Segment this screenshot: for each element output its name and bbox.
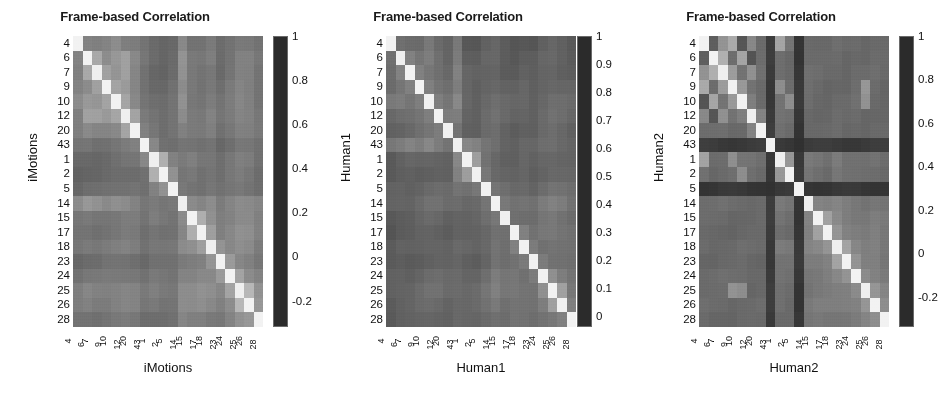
heatmap-cell <box>832 138 842 153</box>
heatmap-cell <box>462 51 472 66</box>
heatmap-cell <box>111 225 121 240</box>
x-tick-labels: 467910122043125141517182324252628 <box>699 328 889 354</box>
heatmap-cell <box>225 254 235 269</box>
heatmap-cell <box>396 240 406 255</box>
heatmap-cell <box>500 312 510 327</box>
heatmap-cell <box>481 167 491 182</box>
colorbar-tick-label: 0.9 <box>596 58 612 70</box>
heatmap-cell <box>111 283 121 298</box>
heatmap-cell <box>709 109 719 124</box>
heatmap-cell <box>83 182 93 197</box>
heatmap-cell <box>424 254 434 269</box>
heatmap-cell <box>83 312 93 327</box>
heatmap-cell <box>510 51 520 66</box>
heatmap-cell <box>396 211 406 226</box>
colorbar-tick-label: 0.4 <box>292 162 308 174</box>
heatmap-cell <box>567 51 577 66</box>
x-axis-title: Human2 <box>699 360 889 375</box>
heatmap-cell <box>756 240 766 255</box>
heatmap-cell <box>462 182 472 197</box>
heatmap-cell <box>206 196 216 211</box>
heatmap-cell <box>434 283 444 298</box>
heatmap-cell <box>225 167 235 182</box>
heatmap-cell <box>244 269 254 284</box>
heatmap-cell <box>785 269 795 284</box>
heatmap-cell <box>548 123 558 138</box>
heatmap-cell <box>794 109 804 124</box>
heatmap-cell <box>149 94 159 109</box>
heatmap-cell <box>225 182 235 197</box>
colorbar-tick-label: 0 <box>596 310 602 322</box>
heatmap-cell <box>785 182 795 197</box>
heatmap-cell <box>718 167 728 182</box>
heatmap-cell <box>519 123 529 138</box>
heatmap-cell <box>443 109 453 124</box>
heatmap-cell <box>557 269 567 284</box>
heatmap-cell <box>187 312 197 327</box>
heatmap-cell <box>130 152 140 167</box>
y-tick-label: 10 <box>40 94 70 109</box>
heatmap-cell <box>405 240 415 255</box>
heatmap-cell <box>709 123 719 138</box>
heatmap-cell <box>453 182 463 197</box>
y-tick-label: 7 <box>353 65 383 80</box>
heatmap-cell <box>225 152 235 167</box>
heatmap-cell <box>159 36 169 51</box>
heatmap-cell <box>851 182 861 197</box>
heatmap-cell <box>434 225 444 240</box>
heatmap-cell <box>699 211 709 226</box>
heatmap-cell <box>396 80 406 95</box>
heatmap-cell <box>766 254 776 269</box>
heatmap-cell <box>567 152 577 167</box>
heatmap-cell <box>159 167 169 182</box>
heatmap-cell <box>443 65 453 80</box>
heatmap-cell <box>699 182 709 197</box>
heatmap-cell <box>510 138 520 153</box>
heatmap-cell <box>386 211 396 226</box>
heatmap-cell <box>538 80 548 95</box>
y-tick-label: 24 <box>353 269 383 284</box>
heatmap-cell <box>130 109 140 124</box>
heatmap-cell <box>386 283 396 298</box>
heatmap-cell <box>813 167 823 182</box>
heatmap-cell <box>557 211 567 226</box>
heatmap-cell <box>699 138 709 153</box>
heatmap-cell <box>491 138 501 153</box>
heatmap-cell <box>235 138 245 153</box>
heatmap-plot-area <box>386 36 576 327</box>
heatmap-cell <box>851 312 861 327</box>
heatmap-cell <box>785 196 795 211</box>
heatmap-cell <box>254 240 264 255</box>
heatmap-cell <box>235 94 245 109</box>
heatmap-cell <box>386 312 396 327</box>
heatmap-cell <box>149 298 159 313</box>
heatmap-cell <box>548 65 558 80</box>
heatmap-cell <box>206 123 216 138</box>
heatmap-cell <box>756 80 766 95</box>
heatmap-cell <box>415 65 425 80</box>
heatmap-cell <box>244 312 254 327</box>
heatmap-cell <box>415 254 425 269</box>
heatmap-cell <box>149 254 159 269</box>
heatmap-cell <box>880 225 890 240</box>
heatmap-cell <box>870 65 880 80</box>
heatmap-cell <box>861 211 871 226</box>
heatmap-cell <box>500 138 510 153</box>
heatmap-cell <box>491 109 501 124</box>
heatmap-cell <box>434 51 444 66</box>
heatmap-cell <box>424 240 434 255</box>
heatmap-cell <box>709 182 719 197</box>
heatmap-cell <box>187 94 197 109</box>
heatmap-cell <box>197 65 207 80</box>
heatmap-cell <box>405 109 415 124</box>
heatmap-cell <box>842 152 852 167</box>
heatmap-cell <box>453 283 463 298</box>
heatmap-cell <box>737 94 747 109</box>
heatmap-cell <box>225 80 235 95</box>
heatmap-cell <box>235 211 245 226</box>
colorbar-tick-label: 0.2 <box>596 254 612 266</box>
heatmap-cell <box>415 312 425 327</box>
heatmap-cell <box>254 94 264 109</box>
heatmap-cell <box>235 298 245 313</box>
y-tick-label: 9 <box>353 80 383 95</box>
